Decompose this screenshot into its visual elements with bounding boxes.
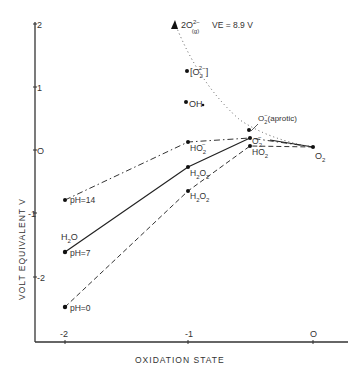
svg-text:HO2: HO2 — [252, 147, 269, 159]
y-tick-2: 2 — [37, 20, 42, 30]
label-h2o2-ph7: H2O2 — [190, 168, 210, 180]
svg-text:H2O: H2O — [61, 232, 78, 244]
label-o2: O2 — [315, 151, 326, 163]
x-tick-m2: -2 — [60, 329, 68, 339]
frost-diagram: 2 1 O -1 -2 -2 -1 O OXIDATION STATE VOLT… — [0, 0, 360, 366]
svg-text:O2−: O2− — [252, 134, 263, 148]
y-tick-0: O — [37, 146, 44, 156]
label-o22: [O22−] — [190, 65, 208, 79]
svg-text:H2O2: H2O2 — [190, 168, 210, 180]
x-tick-0: O — [310, 329, 317, 339]
series-dotted-curve — [176, 26, 313, 147]
svg-text:H2O2: H2O2 — [190, 191, 210, 203]
label-oh: OH — [189, 99, 203, 109]
svg-text:HO2−: HO2− — [190, 141, 207, 155]
x-tick-m1: -1 — [185, 329, 193, 339]
svg-text:O2: O2 — [315, 151, 326, 163]
label-ph0: pH=0 — [70, 303, 91, 313]
svg-text:2O2−(g): 2O2−(g) — [181, 19, 200, 34]
x-axis-label: OXIDATION STATE — [135, 355, 225, 365]
y-axis-label: VOLT EQUIVALENT V — [17, 198, 27, 300]
svg-text:[O22−]: [O22−] — [190, 65, 208, 79]
y-tick-1: 1 — [37, 83, 42, 93]
label-ho2-minus: HO2− — [190, 141, 207, 155]
y-tick-m1: -1 — [28, 209, 36, 219]
label-o2g: 2O2−(g) VE = 8.9 V — [181, 19, 253, 34]
label-ho2: HO2 — [252, 147, 269, 159]
label-ve: VE = 8.9 V — [212, 20, 253, 30]
svg-text:O2−(aprotic): O2−(aprotic) — [258, 112, 297, 125]
data-points — [63, 20, 315, 309]
y-tick-m2: -2 — [37, 273, 45, 283]
label-ph14: pH=14 — [70, 195, 96, 205]
label-h2o2-ph0: H2O2 — [190, 191, 210, 203]
label-aprotic: O2−(aprotic) — [258, 112, 297, 125]
label-o2-minus: O2− — [252, 134, 263, 148]
label-h2o: H2O — [61, 232, 78, 244]
label-ph7: pH=7 — [70, 248, 91, 258]
